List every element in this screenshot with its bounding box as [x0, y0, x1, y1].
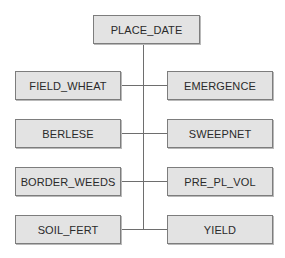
- connector-row-1: [120, 85, 168, 86]
- node-label: BERLESE: [42, 128, 93, 140]
- node-sweepnet: SWEEPNET: [167, 119, 273, 148]
- trunk-line: [143, 43, 144, 230]
- connector-row-3: [120, 181, 168, 182]
- node-label: EMERGENCE: [184, 80, 256, 92]
- node-soil-fert: SOIL_FERT: [15, 215, 121, 244]
- node-label: YIELD: [204, 224, 236, 236]
- node-emergence: EMERGENCE: [167, 71, 273, 100]
- node-berlese: BERLESE: [15, 119, 121, 148]
- node-label: BORDER_WEEDS: [21, 176, 116, 188]
- node-label: SWEEPNET: [189, 128, 252, 140]
- node-label: PLACE_DATE: [111, 24, 183, 36]
- node-yield: YIELD: [167, 215, 273, 244]
- node-place-date: PLACE_DATE: [93, 15, 200, 44]
- node-field-wheat: FIELD_WHEAT: [15, 71, 121, 100]
- connector-row-4: [120, 229, 168, 230]
- node-label: FIELD_WHEAT: [29, 80, 106, 92]
- node-border-weeds: BORDER_WEEDS: [15, 167, 121, 196]
- node-pre-pl-vol: PRE_PL_VOL: [167, 167, 273, 196]
- node-label: SOIL_FERT: [38, 224, 99, 236]
- node-label: PRE_PL_VOL: [184, 176, 255, 188]
- connector-row-2: [120, 133, 168, 134]
